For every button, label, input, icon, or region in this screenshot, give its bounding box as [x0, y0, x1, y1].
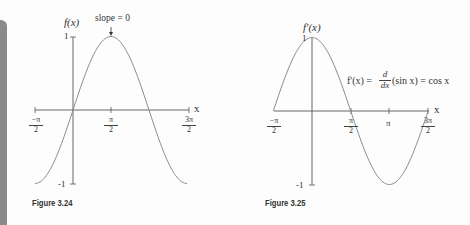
- x-axis-label: x: [434, 104, 440, 115]
- x-tick-3pi-over-2: 3π2: [182, 116, 196, 134]
- figure-3-25: f'(x) 1 -1 x f'(x) = ddx (sin x) = cos x…: [235, 0, 470, 225]
- figure-caption: Figure 3.24: [32, 198, 72, 208]
- formula-lhs: f'(x) =: [347, 76, 372, 86]
- formula-derivative: ddx: [379, 70, 391, 90]
- y-tick-minus-1: -1: [296, 181, 304, 190]
- y-tick-1: 1: [302, 34, 307, 43]
- x-tick-3pi-over-2: 3π2: [421, 117, 435, 135]
- x-tick-neg-pi-over-2: −π2: [267, 117, 281, 135]
- x-tick-neg-pi-over-2: −π2: [29, 116, 43, 134]
- y-axis-label: f'(x): [303, 22, 321, 33]
- formula-rhs: (sin x) = cos x: [392, 76, 449, 86]
- y-axis-label: f(x): [64, 17, 79, 28]
- x-tick-pi-over-2: π2: [104, 116, 118, 134]
- figure-caption: Figure 3.25: [265, 198, 305, 208]
- x-tick-pi: π: [386, 119, 391, 128]
- x-tick-pi-over-2: π2: [344, 117, 358, 135]
- x-axis-label: x: [194, 103, 200, 114]
- figure-3-24: f(x) slope = 0 1 -1 x −π2 π2 3π2 Figure …: [0, 0, 235, 225]
- y-tick-minus-1: -1: [58, 180, 66, 189]
- y-tick-1: 1: [64, 32, 69, 41]
- slope-annotation: slope = 0: [95, 14, 130, 24]
